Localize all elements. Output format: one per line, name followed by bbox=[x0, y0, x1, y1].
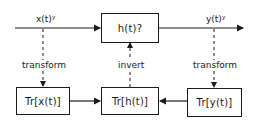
block-tr-y: Tr[y(t)] bbox=[187, 88, 242, 117]
label-transform-right: transform bbox=[192, 60, 238, 70]
label-invert: invert bbox=[117, 60, 145, 70]
label-input-signal: x(t)ʸ bbox=[36, 14, 55, 24]
block-tr-h: Tr[h(t)] bbox=[101, 87, 159, 115]
label-transform-left: transform bbox=[21, 60, 67, 70]
label-output-signal: y(t)ʸ bbox=[206, 14, 225, 24]
system-block-h: h(t)? bbox=[101, 13, 159, 43]
block-tr-x: Tr[x(t)] bbox=[16, 87, 70, 115]
